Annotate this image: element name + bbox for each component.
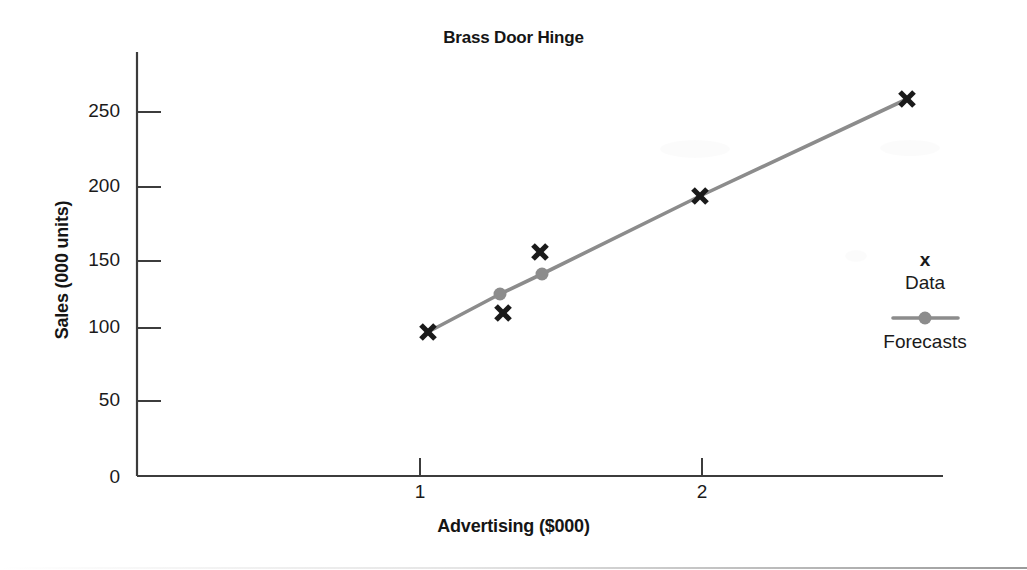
- data-marker: [421, 325, 435, 339]
- data-marker: [533, 245, 547, 259]
- chart-container: Brass Door Hinge Sales (000 units) Adver…: [0, 0, 1027, 570]
- data-marker: [900, 92, 914, 106]
- data-marker: [693, 189, 707, 203]
- legend-data-label: Data: [845, 272, 1005, 294]
- data-marker: [496, 306, 510, 320]
- legend-forecasts-label: Forecasts: [845, 331, 1005, 353]
- x-axis-ticks: [420, 458, 702, 476]
- legend-data-swatch: x: [845, 249, 1005, 271]
- page-bottom-edge: [0, 567, 1027, 569]
- forecast-marker: [494, 288, 507, 301]
- y-axis-ticks: [137, 112, 161, 401]
- legend-forecast-swatch: [893, 312, 958, 325]
- forecast-marker: [536, 268, 549, 281]
